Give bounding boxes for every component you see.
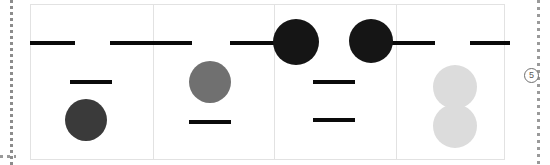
step-marker[interactable]: 5: [524, 68, 539, 83]
ledger-line-6[interactable]: [70, 80, 112, 84]
notation-canvas[interactable]: 5: [0, 0, 550, 165]
notehead-3[interactable]: [273, 19, 319, 65]
barline-measure-1: [153, 4, 154, 160]
ledger-line-5[interactable]: [470, 41, 510, 45]
bottom-guide-rail: [0, 155, 16, 158]
barline-measure-3: [396, 4, 397, 160]
ledger-line-7[interactable]: [189, 120, 231, 124]
ledger-line-8[interactable]: [313, 80, 355, 84]
notehead-5[interactable]: [433, 65, 477, 109]
notehead-4[interactable]: [349, 19, 393, 63]
ledger-line-9[interactable]: [313, 118, 355, 122]
ledger-line-1[interactable]: [30, 41, 75, 45]
ledger-line-2[interactable]: [110, 41, 192, 45]
notehead-2[interactable]: [189, 61, 231, 103]
notehead-6[interactable]: [433, 104, 477, 148]
right-guide-rail: [537, 0, 540, 165]
barline-measure-2: [274, 4, 275, 160]
left-guide-rail: [10, 0, 13, 165]
notehead-1[interactable]: [65, 99, 107, 141]
